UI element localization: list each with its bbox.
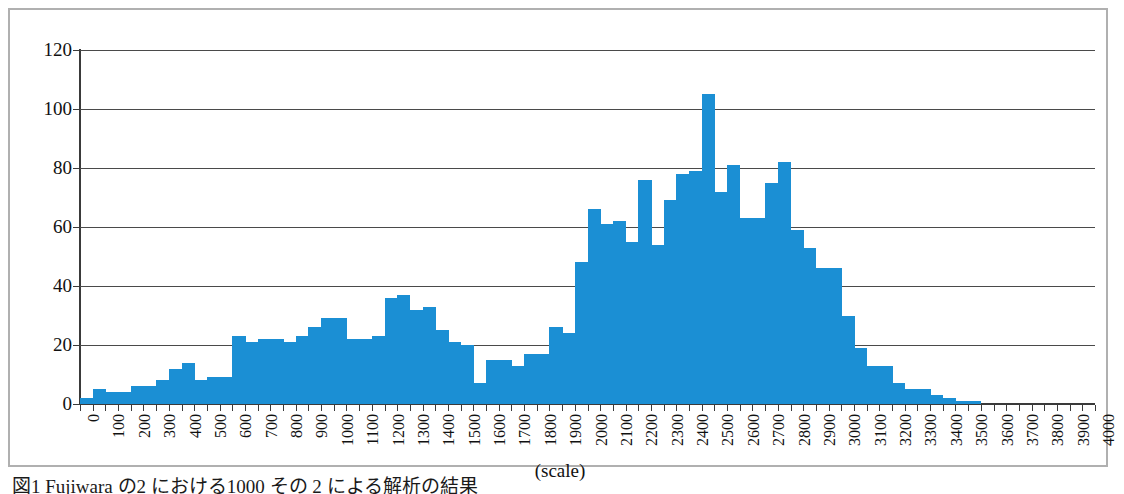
bar <box>803 248 816 404</box>
x-tick-mark <box>905 405 906 411</box>
bar <box>727 165 740 404</box>
figure-caption: 図1 Fujiwara の2 における1000 その 2 による解析の結果 <box>12 471 1112 494</box>
bar <box>676 174 689 404</box>
bar <box>80 398 93 404</box>
x-tick-mark <box>524 405 525 411</box>
x-tick-label: 2600 <box>746 414 762 446</box>
bar <box>448 342 461 404</box>
x-tick-mark <box>752 405 753 411</box>
bar <box>473 383 486 404</box>
y-tick-label: 20 <box>10 335 72 354</box>
x-tick-label: 300 <box>162 414 178 438</box>
bar <box>689 171 702 404</box>
x-tick-mark <box>334 405 335 411</box>
x-tick-mark <box>486 405 487 411</box>
x-tick-mark <box>803 405 804 411</box>
bar <box>131 386 144 404</box>
x-tick-label: 3100 <box>873 414 889 446</box>
x-tick-mark <box>270 405 271 411</box>
bar <box>829 268 842 404</box>
bar <box>321 318 334 404</box>
plot-area <box>80 50 1095 404</box>
bar <box>752 218 765 404</box>
x-tick-label: 2400 <box>695 414 711 446</box>
gridline <box>80 168 1095 169</box>
x-tick-mark <box>232 405 233 411</box>
bar <box>397 295 410 404</box>
x-tick-mark <box>118 405 119 411</box>
x-tick-label: 3300 <box>923 414 939 446</box>
x-tick-mark <box>575 405 576 411</box>
x-tick-mark <box>461 405 462 411</box>
bar <box>765 183 778 404</box>
x-tick-mark <box>917 405 918 411</box>
x-tick-mark <box>372 405 373 411</box>
gridline <box>80 50 1095 51</box>
y-tick-label: 100 <box>10 99 72 118</box>
x-tick-mark <box>359 405 360 411</box>
bar <box>410 310 423 404</box>
bar <box>537 354 550 404</box>
x-tick-mark <box>1070 405 1071 411</box>
x-tick-label: 1500 <box>467 414 483 446</box>
x-tick-mark <box>981 405 982 411</box>
x-tick-label: 3500 <box>974 414 990 446</box>
y-tick-label: 60 <box>10 217 72 236</box>
x-tick-mark <box>549 405 550 411</box>
x-tick-mark <box>473 405 474 411</box>
x-tick-label: 1300 <box>416 414 432 446</box>
x-tick-label: 3000 <box>847 414 863 446</box>
bar <box>562 333 575 404</box>
x-tick-label: 3200 <box>898 414 914 446</box>
x-tick-label: 3600 <box>1000 414 1016 446</box>
x-tick-mark <box>626 405 627 411</box>
bar <box>169 369 182 404</box>
x-tick-mark <box>791 405 792 411</box>
bar <box>588 209 601 404</box>
x-tick-mark <box>955 405 956 411</box>
x-tick-mark <box>296 405 297 411</box>
bar <box>182 363 195 404</box>
x-tick-mark <box>651 405 652 411</box>
x-tick-mark <box>1044 405 1045 411</box>
bar <box>702 94 715 404</box>
x-tick-label: 2300 <box>670 414 686 446</box>
x-tick-mark <box>714 405 715 411</box>
x-tick-mark <box>207 405 208 411</box>
bar <box>917 389 930 404</box>
x-tick-label: 4000 <box>1101 414 1117 446</box>
x-tick-mark <box>169 405 170 411</box>
x-tick-label: 1700 <box>517 414 533 446</box>
bar <box>334 318 347 404</box>
bar <box>486 360 499 404</box>
x-tick-label: 1600 <box>492 414 508 446</box>
bar <box>385 298 398 404</box>
bar <box>600 224 613 404</box>
x-tick-label: 1100 <box>365 414 381 445</box>
bar <box>461 345 474 404</box>
x-tick-mark <box>943 405 944 411</box>
bar <box>626 242 639 404</box>
bar <box>613 221 626 404</box>
x-tick-mark <box>879 405 880 411</box>
x-tick-mark <box>194 405 195 411</box>
x-tick-mark <box>829 405 830 411</box>
bar <box>651 245 664 404</box>
bar <box>207 377 220 404</box>
x-tick-label: 2000 <box>594 414 610 446</box>
x-tick-label: 1400 <box>441 414 457 446</box>
y-tick-label: 0 <box>10 394 72 413</box>
x-tick-mark <box>778 405 779 411</box>
x-tick-mark <box>156 405 157 411</box>
x-tick-label: 2100 <box>619 414 635 446</box>
bar <box>118 392 131 404</box>
bar <box>892 383 905 404</box>
x-tick-mark <box>994 405 995 411</box>
x-tick-label: 2700 <box>771 414 787 446</box>
bar <box>638 180 651 404</box>
x-tick-label: 400 <box>188 414 204 438</box>
bar <box>968 401 981 404</box>
x-tick-mark <box>892 405 893 411</box>
x-tick-mark <box>308 405 309 411</box>
bar <box>511 366 524 404</box>
